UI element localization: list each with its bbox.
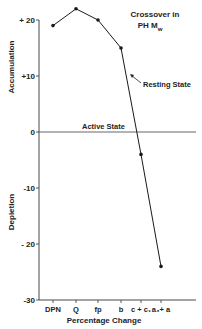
- y-tick-label: + 20: [19, 16, 35, 25]
- data-point: [119, 46, 123, 50]
- y-label-accumulation: Accumulation: [7, 40, 16, 93]
- data-point: [159, 265, 163, 269]
- y-label-depletion: Depletion: [7, 194, 16, 231]
- x-tick-label: Q: [73, 305, 79, 314]
- y-tick-label: - 20: [21, 240, 35, 249]
- chart-title-line2: PH Mw: [138, 21, 163, 32]
- series-line: [53, 9, 161, 267]
- y-tick-label: -10: [23, 184, 35, 193]
- x-tick-label: fp: [94, 305, 101, 314]
- y-tick-label: +10: [21, 72, 35, 81]
- data-point: [96, 18, 100, 22]
- x-tick-label: b: [119, 305, 124, 314]
- x-tick-label: c + c₁: [131, 305, 151, 314]
- annotation-active-state: Active State: [82, 122, 125, 131]
- data-point: [51, 24, 55, 28]
- chart: + 20+100-10- 20-30DPNQfpbc + c₁a₃+ a Cro…: [0, 0, 202, 329]
- y-tick-label: -30: [23, 296, 35, 305]
- annotation-resting-state: Resting State: [143, 80, 191, 89]
- data-point: [139, 153, 143, 157]
- data-point: [74, 7, 78, 11]
- chart-title-line1: Crossover in: [131, 10, 180, 19]
- x-tick-label: DPN: [45, 305, 61, 314]
- x-axis-label: Percentage Change: [67, 316, 142, 325]
- chart-title-line2-main: PH M: [138, 21, 158, 30]
- axes: + 20+100-10- 20-30DPNQfpbc + c₁a₃+ a: [19, 16, 196, 314]
- y-tick-label: 0: [31, 128, 36, 137]
- x-tick-label: a₃+ a: [152, 305, 171, 314]
- series-line-group: [51, 7, 163, 268]
- chart-title-subscript: w: [157, 26, 163, 32]
